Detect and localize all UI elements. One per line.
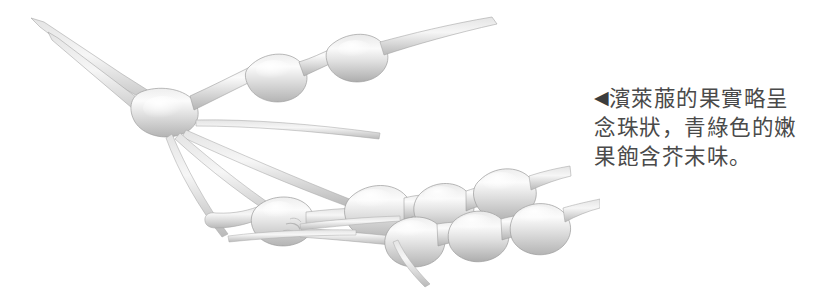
caption-line-1: ◀濱萊菔的果實略呈 (594, 83, 804, 113)
caption-line-1-text: 濱萊菔的果實略呈 (609, 86, 789, 111)
caption-line-3: 果飽含芥末味。 (594, 142, 804, 171)
left-pointing-triangle-icon: ◀ (594, 86, 609, 108)
upper-pod-chain (31, 17, 497, 139)
caption-line-2: 念珠狀，青綠色的嫩 (594, 113, 804, 142)
figure-page: ◀濱萊菔的果實略呈 念珠狀，青綠色的嫩 果飽含芥末味。 (0, 0, 827, 289)
figure-caption: ◀濱萊菔的果實略呈 念珠狀，青綠色的嫩 果飽含芥末味。 (594, 83, 804, 171)
beaded-seed-pod-photo (0, 0, 600, 289)
